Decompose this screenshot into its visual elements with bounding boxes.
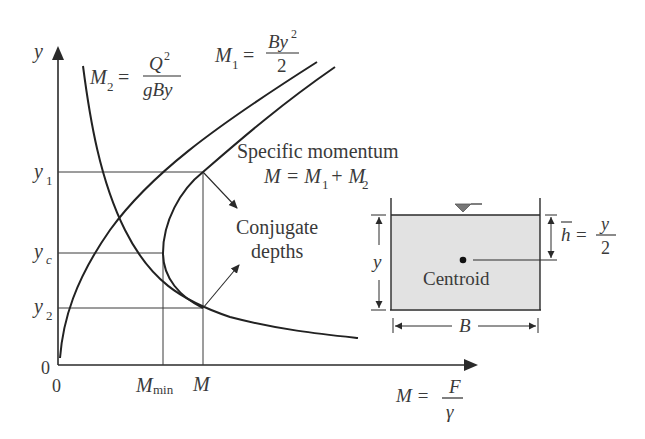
svg-text:M: M — [135, 374, 154, 396]
svg-text:Specific momentum: Specific momentum — [237, 140, 399, 163]
svg-text:1: 1 — [322, 177, 329, 192]
y-tick-yc: y c — [32, 240, 52, 267]
svg-text:2: 2 — [291, 27, 297, 41]
svg-text:1: 1 — [232, 57, 239, 72]
svg-text:M = M: M = M — [263, 165, 322, 187]
svg-text:y: y — [32, 295, 43, 318]
svg-text:c: c — [46, 252, 52, 267]
specific-momentum-curve — [163, 67, 335, 308]
m2-equation: M 2 = Q 2 gBy — [89, 49, 181, 100]
svg-text:2: 2 — [164, 49, 170, 63]
y-tick-y2: y 2 — [32, 295, 53, 323]
specific-momentum-label: Specific momentum M = M 1 + M 2 — [237, 140, 399, 192]
svg-text:Q: Q — [149, 53, 163, 74]
svg-text:2: 2 — [46, 308, 53, 323]
x-axis-label-lhs: M = — [395, 385, 429, 406]
svg-text:=: = — [243, 44, 254, 66]
svg-text:=: = — [118, 66, 129, 88]
x-axis-label-num: F — [448, 376, 461, 397]
svg-text:min: min — [153, 382, 174, 397]
svg-text:gBy: gBy — [143, 79, 173, 100]
origin-x-label: 0 — [52, 376, 61, 396]
conjugate-label-line2: depths — [251, 240, 303, 263]
conjugate-label-line1: Conjugate — [236, 216, 318, 239]
svg-text:By: By — [268, 31, 289, 52]
svg-text:2: 2 — [601, 238, 610, 258]
svg-text:y: y — [32, 240, 43, 263]
curves — [60, 62, 358, 358]
hbar-label: h — [561, 224, 571, 245]
svg-text:1: 1 — [46, 173, 53, 188]
svg-text:=: = — [576, 224, 587, 245]
centroid-dot-icon — [460, 257, 467, 264]
y-axis-arrow-icon — [52, 46, 64, 60]
m2-curve — [83, 66, 358, 338]
conjugate-arrows — [203, 172, 239, 308]
x-axis-arrow-icon — [464, 359, 478, 371]
y-tick-y1: y 1 — [32, 160, 53, 188]
svg-text:2: 2 — [277, 55, 287, 76]
conjugate-arrow-lower-icon — [203, 265, 239, 308]
m1-equation: M 1 = By 2 2 — [214, 27, 299, 76]
origin-y-label: 0 — [41, 358, 50, 378]
x-tick-mmin: M min — [135, 374, 174, 397]
svg-text:M: M — [214, 44, 233, 66]
conjugate-arrow-upper-icon — [203, 172, 237, 208]
svg-text:2: 2 — [362, 177, 369, 192]
reference-lines — [58, 172, 203, 365]
svg-text:2: 2 — [107, 79, 114, 94]
width-label: B — [459, 315, 471, 336]
m1-curve — [60, 62, 317, 358]
y-axis-label: y — [32, 40, 43, 63]
channel-cross-section: Centroid y B h = y 2 — [371, 198, 616, 336]
water-surface-triangle-icon — [455, 204, 471, 212]
svg-text:y: y — [599, 214, 609, 234]
x-tick-m: M — [192, 373, 211, 395]
momentum-diagram: y 0 0 M = F γ y 1 y c y 2 M min M — [0, 0, 645, 439]
svg-text:y: y — [32, 160, 43, 183]
svg-text:M: M — [89, 66, 108, 88]
depth-label: y — [371, 251, 382, 272]
centroid-label: Centroid — [423, 268, 490, 289]
x-axis-label-den: γ — [446, 401, 454, 422]
